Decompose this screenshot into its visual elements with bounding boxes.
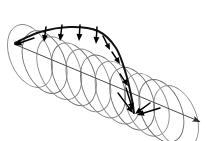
canvas-background [0, 0, 218, 141]
arrow-shaft [45, 27, 46, 35]
helix-diagram [0, 0, 218, 141]
arrow-shaft [79, 25, 80, 34]
figure-root [0, 0, 218, 141]
arrow-shaft [96, 27, 97, 37]
